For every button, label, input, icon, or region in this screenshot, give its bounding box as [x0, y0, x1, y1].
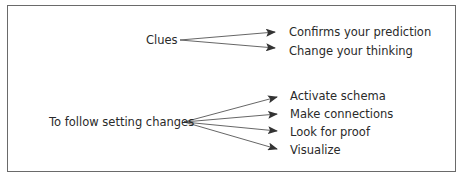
target-confirms-prediction: Confirms your prediction — [289, 25, 431, 39]
target-activate-schema: Activate schema — [290, 89, 386, 103]
target-change-thinking: Change your thinking — [289, 44, 413, 58]
target-look-for-proof: Look for proof — [290, 125, 370, 139]
source-setting-changes: To follow setting changes — [49, 115, 194, 129]
arrow-clues-to-change — [180, 40, 275, 48]
source-clues: Clues — [146, 33, 178, 47]
target-visualize: Visualize — [290, 143, 341, 157]
target-make-connections: Make connections — [290, 107, 393, 121]
arrow-clues-to-confirms — [180, 32, 275, 40]
